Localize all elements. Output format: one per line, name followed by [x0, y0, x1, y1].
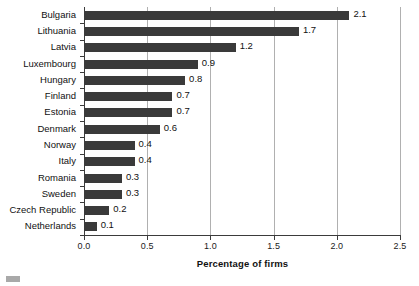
y-tick [80, 88, 84, 89]
x-tick-label-2.0: 2.0 [317, 241, 357, 251]
x-axis-line [84, 235, 401, 236]
bar-norway [84, 141, 135, 150]
bar-hungary [84, 76, 185, 85]
bar-row: 0.4 [84, 141, 400, 150]
category-label-finland: Finland [0, 90, 76, 101]
bar-row: 0.7 [84, 108, 400, 117]
category-label-czech-republic: Czech Republic [0, 204, 76, 215]
bar-luxembourg [84, 60, 198, 69]
category-label-romania: Romania [0, 172, 76, 183]
category-label-latvia: Latvia [0, 41, 76, 52]
x-tick-label-1.0: 1.0 [190, 241, 230, 251]
y-tick [80, 40, 84, 41]
bar-row: 0.4 [84, 157, 400, 166]
y-tick [80, 137, 84, 138]
category-label-estonia: Estonia [0, 106, 76, 117]
bar-value-label: 0.9 [202, 57, 215, 68]
x-axis-title: Percentage of firms [84, 258, 401, 269]
y-tick [80, 219, 84, 220]
bar-value-label: 0.4 [139, 154, 152, 165]
category-label-sweden: Sweden [0, 188, 76, 199]
bar-italy [84, 157, 135, 166]
bar-value-label: 0.3 [126, 171, 139, 182]
bar-value-label: 2.1 [353, 8, 366, 19]
bar-value-label: 1.2 [240, 40, 253, 51]
bar-row: 0.9 [84, 60, 400, 69]
y-tick [80, 23, 84, 24]
y-tick [80, 121, 84, 122]
bar-bulgaria [84, 11, 349, 20]
bar-sweden [84, 190, 122, 199]
x-tick-label-2.5: 2.5 [380, 241, 419, 251]
bar-row: 0.3 [84, 174, 400, 183]
bar-netherlands [84, 222, 97, 231]
category-label-denmark: Denmark [0, 123, 76, 134]
x-tick-2.5 [400, 236, 401, 240]
category-label-bulgaria: Bulgaria [0, 9, 76, 20]
x-tick-label-0.5: 0.5 [127, 241, 167, 251]
x-tick-0.5 [147, 236, 148, 240]
bar-czech-republic [84, 206, 109, 215]
bar-row: 0.3 [84, 190, 400, 199]
category-label-norway: Norway [0, 139, 76, 150]
category-label-italy: Italy [0, 155, 76, 166]
category-label-netherlands: Netherlands [0, 220, 76, 231]
bar-chart: 0.00.51.01.52.02.5 BulgariaLithuaniaLatv… [0, 0, 419, 286]
category-label-luxembourg: Luxembourg [0, 58, 76, 69]
bar-romania [84, 174, 122, 183]
bar-row: 1.7 [84, 27, 400, 36]
category-label-hungary: Hungary [0, 74, 76, 85]
bar-value-label: 0.8 [189, 73, 202, 84]
bar-row: 0.8 [84, 76, 400, 85]
y-tick [80, 105, 84, 106]
x-tick-2.0 [337, 236, 338, 240]
y-tick [80, 72, 84, 73]
bar-value-label: 0.1 [101, 219, 114, 230]
x-tick-1.5 [274, 236, 275, 240]
x-tick-1.0 [210, 236, 211, 240]
bar-value-label: 0.7 [176, 89, 189, 100]
gridline-2.5 [400, 7, 401, 235]
x-tick-label-1.5: 1.5 [254, 241, 294, 251]
y-tick [80, 154, 84, 155]
bar-row: 0.1 [84, 222, 400, 231]
bar-row: 2.1 [84, 11, 400, 20]
bar-latvia [84, 43, 236, 52]
gridline-0.5 [147, 7, 148, 235]
bar-value-label: 0.2 [113, 203, 126, 214]
legend-swatch-artifact [6, 276, 20, 282]
bar-finland [84, 92, 172, 101]
bar-row: 1.2 [84, 43, 400, 52]
x-tick-0.0 [84, 236, 85, 240]
bar-row: 0.7 [84, 92, 400, 101]
gridline-1.5 [274, 7, 275, 235]
bar-value-label: 0.7 [176, 105, 189, 116]
bar-row: 0.2 [84, 206, 400, 215]
bar-value-label: 0.4 [139, 138, 152, 149]
y-tick [80, 170, 84, 171]
bar-value-label: 0.3 [126, 187, 139, 198]
bar-lithuania [84, 27, 299, 36]
bar-row: 0.6 [84, 125, 400, 134]
bar-value-label: 1.7 [303, 24, 316, 35]
y-tick [80, 202, 84, 203]
bar-estonia [84, 108, 172, 117]
bar-value-label: 0.6 [164, 122, 177, 133]
gridline-2.0 [337, 7, 338, 235]
gridline-1.0 [210, 7, 211, 235]
y-tick [80, 56, 84, 57]
y-tick [80, 186, 84, 187]
category-label-lithuania: Lithuania [0, 25, 76, 36]
y-tick [80, 235, 84, 236]
x-tick-label-0.0: 0.0 [64, 241, 104, 251]
bar-denmark [84, 125, 160, 134]
